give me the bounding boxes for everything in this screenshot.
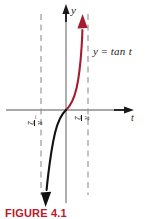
equation-rhs: tan t (111, 45, 132, 57)
equation-annotation: y=tan t (93, 46, 132, 57)
figure-caption: FIGURE 4.1 (5, 207, 67, 219)
y-axis-label: y (71, 5, 76, 16)
tangent-plot-svg (0, 0, 155, 219)
half-pi-denominator: 2 (73, 115, 81, 121)
equation-equals: = (101, 45, 108, 57)
neg-half-pi-fraction: π2 (26, 120, 44, 126)
tangent-function-figure: y t y=tan t −π2 π2 FIGURE 4.1 (0, 0, 155, 219)
neg-half-pi-sign: − (31, 115, 39, 120)
tick-label-half-pi: π2 (73, 115, 91, 121)
t-axis-label: t (131, 113, 134, 123)
neg-half-pi-denominator: 2 (26, 120, 34, 126)
half-pi-numerator: π (83, 115, 91, 121)
half-pi-fraction: π2 (73, 115, 91, 121)
lower-branch-arrowhead-icon (41, 192, 51, 207)
tangent-curve-upper-branch (66, 30, 82, 110)
tick-label-neg-half-pi: −π2 (26, 115, 44, 126)
upper-branch-arrowhead-icon (77, 14, 87, 29)
equation-lhs: y (93, 45, 98, 57)
neg-half-pi-numerator: π (36, 120, 44, 126)
tangent-curve-lower-branch (47, 110, 66, 190)
